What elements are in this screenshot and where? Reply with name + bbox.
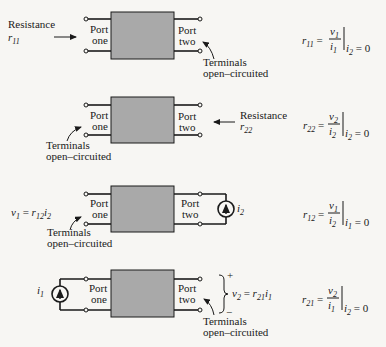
svg-text:i1: i1 bbox=[328, 299, 335, 314]
terminal bbox=[198, 308, 202, 312]
svg-text:i2 = 0: i2 = 0 bbox=[344, 302, 369, 317]
two-port-diagram: Resistance r11 Port one Port two Termina… bbox=[0, 0, 386, 347]
terminal bbox=[198, 192, 202, 196]
two-port-network-box bbox=[111, 270, 174, 317]
svg-text:r12 =: r12 = bbox=[303, 208, 324, 223]
i1-source-label: i1 bbox=[37, 284, 44, 299]
svg-text:v2: v2 bbox=[328, 284, 337, 299]
v1-equation: v1 = r12i2 bbox=[11, 206, 51, 221]
plus-sign: + bbox=[227, 269, 233, 281]
port-one-label: one bbox=[92, 208, 108, 220]
port-two-label: two bbox=[182, 208, 199, 220]
terminal bbox=[198, 49, 202, 53]
port-one-label: one bbox=[92, 34, 108, 46]
svg-text:i2 = 0: i2 = 0 bbox=[346, 42, 371, 57]
port-one-label: one bbox=[91, 293, 107, 305]
two-port-network-box bbox=[111, 186, 174, 232]
current-source-icon bbox=[218, 201, 234, 217]
terminal bbox=[198, 103, 202, 107]
terminal bbox=[198, 17, 202, 21]
svg-text:r11 =: r11 = bbox=[302, 34, 323, 49]
resistance-label: Resistance bbox=[8, 18, 55, 30]
svg-text:v1: v1 bbox=[330, 25, 339, 40]
svg-text:i2: i2 bbox=[329, 125, 336, 140]
r11-symbol: r11 bbox=[8, 31, 20, 46]
svg-text:i2 = 0: i2 = 0 bbox=[345, 127, 370, 142]
terminal bbox=[198, 277, 202, 281]
row-r21: i1 Port one Port two + − v2 = r21i1 Term… bbox=[37, 269, 369, 338]
port-one-label: one bbox=[92, 120, 108, 132]
svg-text:r22 =: r22 = bbox=[303, 119, 324, 134]
open-circuited-label: open–circuited bbox=[203, 67, 269, 79]
terminal bbox=[198, 133, 202, 137]
i2-source-label: i2 bbox=[237, 202, 244, 217]
terminal bbox=[84, 277, 88, 281]
svg-text:v2: v2 bbox=[329, 110, 338, 125]
open-circuited-label: open–circuited bbox=[203, 326, 269, 338]
current-source-icon bbox=[52, 286, 68, 302]
row-r12: v1 = r12i2 i2 Port one Port two Terminal… bbox=[11, 186, 370, 249]
svg-text:i1: i1 bbox=[330, 40, 337, 55]
terminal bbox=[84, 308, 88, 312]
open-circuited-label: open–circuited bbox=[46, 150, 112, 162]
resistance-label: Resistance bbox=[240, 109, 287, 121]
two-port-network-box bbox=[111, 12, 174, 59]
svg-text:r21 =: r21 = bbox=[302, 293, 323, 308]
equation-r11: r11 = v1 i1 i2 = 0 bbox=[302, 25, 371, 57]
open-circuited-label: open–circuited bbox=[47, 237, 113, 249]
equation-r21: r21 = v2 i1 i2 = 0 bbox=[302, 284, 369, 317]
terminal bbox=[84, 133, 88, 137]
equation-r12: r12 = v1 i2 i1 = 0 bbox=[303, 199, 370, 231]
port-two-label: two bbox=[179, 121, 196, 133]
terminal bbox=[198, 222, 202, 226]
row-r11: Resistance r11 Port one Port two Termina… bbox=[8, 12, 371, 79]
v2-equation: v2 = r21i1 bbox=[232, 287, 272, 302]
terminal bbox=[84, 192, 88, 196]
svg-text:i1 = 0: i1 = 0 bbox=[345, 216, 370, 231]
row-r22: Port one Port two Terminals open–circuit… bbox=[46, 97, 370, 162]
terminal bbox=[84, 17, 88, 21]
r22-symbol: r22 bbox=[240, 120, 252, 135]
svg-text:v1: v1 bbox=[329, 199, 338, 214]
terminal bbox=[84, 49, 88, 53]
port-two-label: two bbox=[179, 293, 196, 305]
equation-r22: r22 = v2 i2 i2 = 0 bbox=[303, 110, 370, 142]
port-two-label: two bbox=[179, 35, 196, 47]
terminal bbox=[84, 103, 88, 107]
svg-text:i2: i2 bbox=[329, 214, 336, 229]
arrow-icon bbox=[204, 299, 214, 315]
two-port-network-box bbox=[111, 97, 174, 143]
